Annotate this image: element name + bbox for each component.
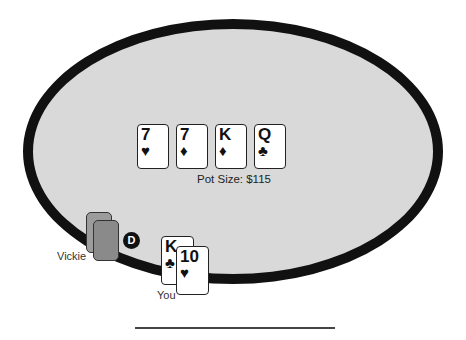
community-card-2: 7 ♦ bbox=[176, 124, 208, 169]
opponent-name: Vickie bbox=[57, 250, 86, 262]
heart-suit-icon: ♥ bbox=[180, 265, 189, 281]
club-suit-icon: ♣ bbox=[165, 255, 175, 271]
heart-suit-icon: ♥ bbox=[141, 143, 150, 159]
hero-name: You bbox=[157, 289, 176, 301]
opponent-card-back-2 bbox=[93, 220, 119, 261]
club-suit-icon: ♣ bbox=[258, 143, 268, 159]
hero-card-2: 10 ♥ bbox=[176, 246, 209, 295]
dealer-button-icon: D bbox=[123, 232, 140, 249]
pot-size-label: Pot Size: $115 bbox=[197, 173, 271, 185]
community-card-4: Q ♣ bbox=[254, 124, 286, 169]
divider-line bbox=[135, 327, 335, 329]
diamond-suit-icon: ♦ bbox=[219, 143, 227, 159]
community-card-1: 7 ♥ bbox=[137, 124, 169, 169]
diamond-suit-icon: ♦ bbox=[180, 143, 188, 159]
community-card-3: K ♦ bbox=[215, 124, 247, 169]
